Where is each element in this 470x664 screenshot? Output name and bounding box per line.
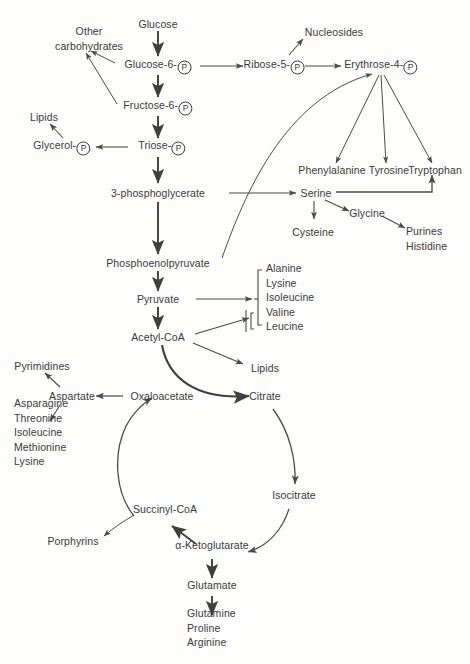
node-pyruvate: Pyruvate: [137, 293, 179, 306]
node-phosphoenolpyruvate: Phosphoenolpyruvate: [106, 257, 209, 270]
node-3-phosphoglycerate: 3-phosphoglycerate: [111, 187, 205, 200]
ribose-5-p-label: Ribose-5-: [244, 58, 290, 70]
fructose-6-p-label: Fructose-6-: [123, 99, 178, 111]
node-glucose: Glucose: [138, 18, 177, 31]
amino-acid-valine: Valine: [266, 304, 314, 319]
node-lipids-upper: Lipids: [30, 111, 58, 124]
node-succinyl-coa: Succinyl-CoA: [133, 503, 197, 516]
node-fructose-6-phosphate: Fructose-6-P: [123, 99, 192, 116]
product-isoleucine: Isoleucine: [14, 425, 68, 440]
glucose-6-p-label: Glucose-6-: [125, 58, 177, 70]
product-threonine: Threonine: [14, 410, 68, 425]
node-purines-histidine: Purines Histidine: [406, 224, 447, 253]
node-tryptophan: Tryptophan: [408, 164, 462, 177]
pyruvate-amino-acid-list: Alanine Lysine Isoleucine Valine Leucine: [266, 261, 314, 334]
amino-acid-leucine: Leucine: [266, 319, 314, 334]
product-methionine: Methionine: [14, 439, 68, 454]
amino-acid-isoleucine: Isoleucine: [266, 290, 314, 305]
node-glycine: Glycine: [349, 207, 385, 220]
phosphate-icon: P: [77, 142, 91, 156]
phosphate-icon: P: [172, 142, 186, 156]
aspartate-product-list: Asparagine Threonine Isoleucine Methioni…: [14, 396, 68, 469]
node-phenylalanine: Phenylalanine: [298, 164, 365, 177]
amino-acid-alanine: Alanine: [266, 261, 314, 276]
node-glycerol-phosphate: Glycerol-P: [33, 139, 90, 156]
phosphate-icon: P: [177, 61, 191, 75]
histidine-label: Histidine: [406, 238, 447, 253]
triose-p-label: Triose-: [138, 139, 171, 151]
node-alpha-ketoglutarate: α-Ketoglutarate: [175, 539, 249, 552]
purines-label: Purines: [406, 224, 447, 239]
phosphate-icon: P: [404, 61, 418, 75]
phosphate-icon: P: [179, 102, 193, 116]
node-serine: Serine: [301, 187, 332, 200]
node-lipids-lower: Lipids: [251, 362, 279, 375]
node-triose-phosphate: Triose-P: [138, 139, 185, 156]
node-glucose-6-phosphate: Glucose-6-P: [125, 58, 192, 75]
node-glutamate: Glutamate: [187, 579, 236, 592]
node-pyrimidines: Pyrimidines: [14, 360, 69, 373]
product-proline: Proline: [187, 621, 236, 636]
node-oxaloacetate: Oxaloacetate: [130, 390, 193, 403]
product-glutamine: Glutamine: [187, 606, 236, 621]
glutamate-product-list: Glutamine Proline Arginine: [187, 606, 236, 650]
product-lysine: Lysine: [14, 454, 68, 469]
product-arginine: Arginine: [187, 635, 236, 650]
pathway-arrows: [0, 0, 470, 664]
metabolic-pathway-diagram: Glucose Other carbohydrates Glucose-6-P …: [0, 0, 470, 664]
node-isocitrate: Isocitrate: [272, 489, 316, 502]
glycerol-p-label: Glycerol-: [33, 139, 76, 151]
node-cysteine: Cysteine: [292, 226, 334, 239]
node-acetyl-coa: Acetyl-CoA: [131, 331, 185, 344]
other-carbohydrates-line1: Other: [55, 24, 123, 39]
product-asparagine: Asparagine: [14, 396, 68, 411]
node-nucleosides: Nucleosides: [305, 26, 363, 39]
node-ribose-5-phosphate: Ribose-5-P: [244, 58, 305, 75]
node-tyrosine: Tyrosine: [369, 164, 409, 177]
node-citrate: Citrate: [249, 390, 281, 403]
amino-acid-lysine: Lysine: [266, 275, 314, 290]
phosphate-icon: P: [290, 61, 304, 75]
node-erythrose-4-phosphate: Erythrose-4-P: [344, 58, 417, 75]
node-other-carbohydrates: Other carbohydrates: [55, 24, 123, 53]
other-carbohydrates-line2: carbohydrates: [55, 38, 123, 53]
node-porphyrins: Porphyrins: [47, 535, 98, 548]
erythrose-4-p-label: Erythrose-4-: [344, 58, 403, 70]
